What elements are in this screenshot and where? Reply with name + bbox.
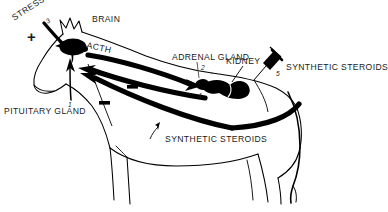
minus-sign-upper-bar — [127, 85, 138, 89]
marker-two: 2 — [201, 64, 205, 71]
marker-four: 4 — [198, 92, 202, 99]
kidney-leader-line — [232, 66, 243, 82]
label-synthetic-steroids-bottom: SYNTHETIC STEROIDS — [165, 134, 267, 144]
synthetic-steroids-bottom-pointer — [150, 122, 160, 139]
minus-sign-lower-bar — [99, 101, 110, 105]
stress-arrow-icon — [44, 23, 68, 50]
label-pituitary-gland: PITUITARY GLAND — [4, 106, 86, 116]
label-brain: BRAIN — [92, 14, 120, 24]
pituitary-gland-organ — [60, 39, 89, 66]
plus-sign-stress: + — [27, 28, 36, 45]
label-synthetic-steroids-right: SYNTHETIC STEROIDS — [286, 62, 388, 72]
marker-five: 5 — [276, 70, 280, 77]
label-kidney: KIDNEY — [226, 56, 260, 66]
steroid-distribution-arc — [232, 104, 299, 128]
adrenal-leader-line — [197, 62, 199, 78]
pituitary-pointer-arrow — [66, 58, 75, 100]
minus-sign-pituitary-bar — [98, 72, 107, 75]
kidney-organ — [203, 80, 250, 99]
